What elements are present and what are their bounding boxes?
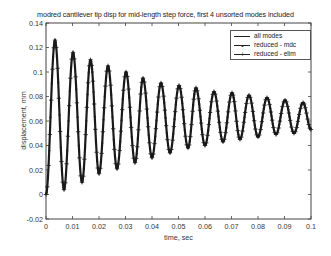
plus-marker-icon: + <box>240 51 245 58</box>
svg-text:0.03: 0.03 <box>119 222 133 231</box>
svg-text:0.09: 0.09 <box>278 222 292 231</box>
svg-text:0.06: 0.06 <box>29 117 43 126</box>
data-curves <box>44 38 313 197</box>
svg-text:0.04: 0.04 <box>29 141 43 150</box>
svg-text:0.08: 0.08 <box>29 92 43 101</box>
legend-item-reduced-elim: + reduced - elim <box>234 50 310 59</box>
svg-text:0: 0 <box>44 222 48 231</box>
y-axis-label: displacement, mm <box>19 76 28 166</box>
svg-text:0.1: 0.1 <box>306 222 316 231</box>
svg-text:0.14: 0.14 <box>29 19 43 28</box>
x-axis-label: time, sec <box>46 233 311 242</box>
svg-text:0.07: 0.07 <box>225 222 239 231</box>
svg-text:0.1: 0.1 <box>33 68 43 77</box>
legend-item-reduced-mdc: • reduced - mdc <box>234 41 310 50</box>
svg-text:0.02: 0.02 <box>92 222 106 231</box>
svg-text:0.08: 0.08 <box>251 222 265 231</box>
figure: modred cantilever tip disp for mid-lengt… <box>0 0 331 256</box>
legend-item-all-modes: all modes <box>234 32 310 41</box>
svg-text:0: 0 <box>39 190 43 199</box>
svg-text:0.01: 0.01 <box>66 222 80 231</box>
solid-line-icon <box>234 36 250 37</box>
svg-text:0.04: 0.04 <box>145 222 159 231</box>
svg-text:0.12: 0.12 <box>29 43 43 52</box>
svg-text:0.02: 0.02 <box>29 166 43 175</box>
legend: all modes • reduced - mdc + reduced - el… <box>230 30 311 60</box>
dot-marker-icon: • <box>240 42 245 49</box>
svg-text:-0.02: -0.02 <box>27 215 43 224</box>
svg-text:0.05: 0.05 <box>172 222 186 231</box>
svg-text:0.06: 0.06 <box>198 222 212 231</box>
